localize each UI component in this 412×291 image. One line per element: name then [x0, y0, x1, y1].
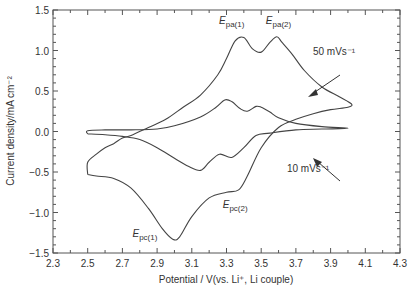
x-tick-label: 3.7 [289, 258, 303, 269]
y-tick-label: −1.5 [29, 248, 49, 259]
x-tick-label: 3.3 [220, 258, 234, 269]
y-tick-labels: 1.51.00.50.0−0.5−1.0−1.5 [29, 5, 49, 259]
x-tick-labels: 2.32.52.72.93.13.33.53.73.94.14.3 [46, 258, 407, 269]
annotation-epa2: Epa(2) [266, 15, 292, 29]
annotation-l50: 50 mVs⁻¹ [313, 46, 356, 57]
x-axis-title: Potential / V(vs. Li⁺, Li couple) [159, 274, 294, 285]
x-tick-label: 3.1 [185, 258, 199, 269]
x-tick-label: 3.9 [324, 258, 338, 269]
x-tick-label: 4.3 [393, 258, 407, 269]
y-tick-label: 0.5 [35, 86, 49, 97]
annotation-epc2: Epc(2) [223, 199, 248, 213]
x-tick-label: 3.5 [254, 258, 268, 269]
y-axis-title: Current density/mA cm⁻² [5, 76, 16, 186]
x-tick-label: 2.7 [115, 258, 129, 269]
y-tick-label: 0.0 [35, 127, 49, 138]
x-tick-label: 4.1 [358, 258, 372, 269]
arrow-50-icon [308, 89, 318, 97]
y-tick-label: 1.5 [35, 5, 49, 16]
x-tick-label: 2.5 [81, 258, 95, 269]
y-tick-label: −0.5 [29, 167, 49, 178]
x-tick-label: 2.9 [150, 258, 164, 269]
y-tick-label: −1.0 [29, 208, 49, 219]
annotation-l10: 10 mVs⁻¹ [287, 163, 330, 174]
annotation-epc1: Epc(1) [133, 228, 158, 242]
cv-curve-50 [87, 37, 352, 240]
y-tick-label: 1.0 [35, 46, 49, 57]
cv-curves [86, 37, 352, 240]
cyclic-voltammogram-chart: 2.32.52.72.93.13.33.53.73.94.14.3 1.51.0… [0, 0, 412, 291]
x-tick-label: 2.3 [46, 258, 60, 269]
annotation-epa1: Epa(1) [219, 15, 245, 29]
cv-curve-10 [86, 100, 348, 171]
